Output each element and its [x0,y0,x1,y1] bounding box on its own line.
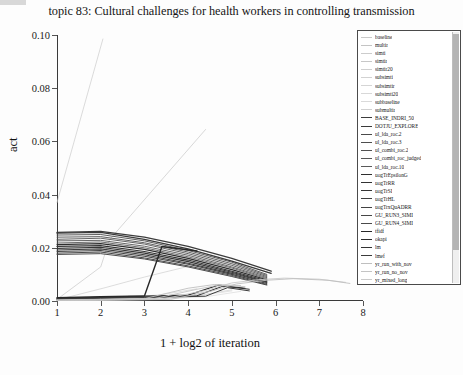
legend-item[interactable]: ul_lda_roc.2 [360,130,460,138]
y-tick-label: 0.06 [32,136,50,147]
legend-item[interactable]: yr_run_with_nov [360,260,460,268]
legend-label: uogTrxQuADRR [375,203,412,211]
legend-item[interactable]: GU_RUN4_SIMI [360,219,460,227]
legend-item[interactable]: ul_combi_roc_judged [360,154,460,162]
legend-color-swatch [361,77,372,78]
legend-item[interactable]: tfidf [360,227,460,235]
data-curves [57,35,363,301]
legend-color-swatch [361,231,372,232]
legend-label: ul_combi_roc_judged [375,154,421,162]
legend-label: submultir [375,106,395,114]
x-tick-label: 3 [142,307,147,318]
legend-item[interactable]: lmef [360,252,460,260]
legend-item[interactable]: ul_combi_roc.2 [360,146,460,154]
legend-scrollbar[interactable] [452,32,459,283]
y-tick-label: 0.00 [32,296,50,307]
legend-label: simti [375,49,386,57]
legend-color-swatch [361,53,372,54]
x-tick-label: 2 [98,307,103,318]
y-tick-label: 0.02 [32,242,50,253]
legend-item[interactable]: simti [360,49,460,57]
legend-scroll-thumb[interactable] [453,34,459,250]
x-tick [188,301,189,306]
legend-label: simtir20 [375,65,393,73]
legend-color-swatch [361,190,372,191]
legend-label: yr_run_no_nov [375,268,408,276]
legend-color-swatch [361,198,372,199]
legend-label: ul_lda_roc.2 [375,130,402,138]
legend-label: ul_combi_roc.2 [375,146,408,154]
legend-item[interactable]: yr_mixed_sim_nov [360,284,460,285]
legend-label: uogTrEpsilonG [375,171,408,179]
legend-label: uogTrHL [375,195,395,203]
x-tick [319,301,320,306]
legend-label: lmef [375,252,385,260]
legend-item[interactable]: subsimtir [360,82,460,90]
legend-label: baseline [375,33,392,41]
legend-item[interactable]: GU_RUN3_SIMI [360,211,460,219]
legend-item[interactable]: uogTrxQuADRR [360,203,460,211]
x-tick-label: 8 [360,307,365,318]
legend-item[interactable]: yr_run_no_nov [360,268,460,276]
legend-items: baselinemultirsimtisimtirsimtir20subsimt… [360,33,460,285]
legend-item[interactable]: submultir [360,106,460,114]
x-tick-label: 1 [54,307,59,318]
legend-item[interactable]: simtir20 [360,65,460,73]
legend-label: yr_mixed_long [375,276,407,284]
legend-item[interactable]: uogTrSI [360,187,460,195]
legend-item[interactable]: subsimti [360,73,460,81]
legend-color-swatch [361,61,372,62]
x-tick-label: 5 [229,307,234,318]
legend-item[interactable]: multir [360,41,460,49]
legend-label: uogTrSI [375,187,392,195]
legend-color-swatch [361,126,372,127]
x-tick [232,301,233,306]
x-tick [144,301,145,306]
legend-item[interactable]: DOTJU_EXPLORE [360,122,460,130]
x-tick-label: 6 [273,307,278,318]
legend-label: tfidf [375,227,384,235]
legend-item[interactable]: subbaseline [360,98,460,106]
legend-item[interactable]: uogTrEpsilonG [360,171,460,179]
legend-label: DOTJU_EXPLORE [375,122,418,130]
legend-label: BASE_INDRI_50 [375,114,414,122]
x-axis-label: 1 + log2 of iteration [57,336,363,351]
legend-color-swatch [361,247,372,248]
legend-label: subbaseline [375,98,400,106]
legend-label: subsimti [375,73,393,81]
x-tick-label: 4 [186,307,191,318]
series-line [57,129,206,299]
legend-item[interactable]: subsimti20 [360,90,460,98]
legend-label: yr_mixed_sim_nov [375,284,416,285]
chart-legend[interactable]: baselinemultirsimtisimtirsimtir20subsimt… [357,30,461,285]
chart-figure: topic 83: Cultural challenges for health… [0,0,463,375]
legend-label: multir [375,41,388,49]
legend-label: okapi [375,235,387,243]
legend-label: GU_RUN3_SIMI [375,211,413,219]
y-tick-label: 0.04 [32,189,50,200]
legend-label: ul_lda_roc.3 [375,138,402,146]
legend-color-swatch [361,263,372,264]
legend-label: uogTrRR [375,179,395,187]
legend-item[interactable]: baseline [360,33,460,41]
legend-color-swatch [361,166,372,167]
legend-color-swatch [361,101,372,102]
legend-color-swatch [361,215,372,216]
legend-item[interactable]: yr_mixed_long [360,276,460,284]
legend-color-swatch [361,182,372,183]
legend-color-swatch [361,174,372,175]
legend-item[interactable]: okapi [360,235,460,243]
legend-item[interactable]: lm [360,243,460,251]
legend-item[interactable]: uogTrRR [360,179,460,187]
legend-item[interactable]: simtir [360,57,460,65]
legend-item[interactable]: BASE_INDRI_50 [360,114,460,122]
legend-label: GU_RUN4_SIMI [375,219,413,227]
series-line [57,266,188,300]
x-tick [363,301,364,306]
x-tick-label: 7 [317,307,322,318]
legend-item[interactable]: uogTrHL [360,195,460,203]
legend-color-swatch [361,207,372,208]
legend-item[interactable]: ul_lda_roc.10 [360,163,460,171]
y-tick-label: 0.10 [32,30,50,41]
legend-item[interactable]: ul_lda_roc.3 [360,138,460,146]
